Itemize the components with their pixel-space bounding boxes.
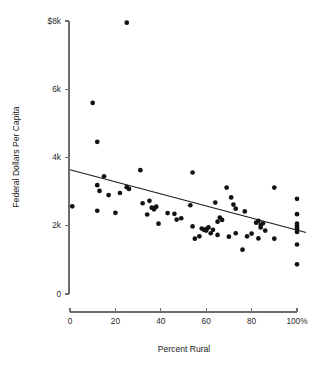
data-point [193,236,198,241]
data-point [106,193,111,198]
data-point [70,204,75,209]
data-point [233,206,238,211]
data-point [113,210,118,215]
data-point [240,247,245,252]
x-axis-tick-label: 60 [202,316,212,326]
data-point [95,208,100,213]
data-point [233,231,238,236]
data-point [190,170,195,175]
data-point [174,217,179,222]
regression-line [70,170,306,233]
data-point [156,221,161,226]
data-point [138,168,143,173]
y-axis-tick-label: 0 [56,289,61,299]
data-point [258,225,263,230]
data-point [227,234,232,239]
data-point [188,203,193,208]
y-axis-tick-label: 4k [52,152,62,162]
data-point [190,224,195,229]
data-point [229,195,234,200]
data-point [295,242,300,247]
chart-canvas: 02k4k6k$8k 020406080100% Federal Dollars… [0,0,320,370]
x-axis-tick-label: 40 [156,316,166,326]
data-point [295,212,300,217]
data-point [249,231,254,236]
data-point [154,204,159,209]
data-point [118,191,123,196]
data-point [124,20,129,25]
data-point [215,233,220,238]
y-axis-tick-label: 2k [52,220,62,230]
x-axis-tick-label: 0 [68,316,73,326]
data-point [295,196,300,201]
y-axis: 02k4k6k$8k [48,16,69,299]
y-axis-tick-label: $8k [48,16,62,26]
data-point [263,228,268,233]
data-point [145,212,150,217]
data-point [242,209,247,214]
data-point [272,185,277,190]
data-point [90,101,95,106]
x-axis: 020406080100% [68,308,309,327]
data-point [147,198,152,203]
y-axis-title: Federal Dollars Per Capita [11,106,21,207]
data-point [95,183,100,188]
scatter-plot-figure: 02k4k6k$8k 020406080100% Federal Dollars… [0,0,320,370]
data-point [211,227,216,232]
y-axis-tick-label: 6k [52,84,62,94]
data-point [215,219,220,224]
data-points-group [70,20,299,266]
data-point [295,262,300,267]
data-point [224,185,229,190]
data-point [179,216,184,221]
data-point [220,218,225,223]
data-point [206,225,211,230]
x-axis-tick-label: 20 [111,316,121,326]
x-axis-tick-label: 80 [247,316,257,326]
data-point [272,236,277,241]
x-axis-title: Percent Rural [158,344,211,354]
x-axis-tick-label: 100% [286,316,308,326]
data-point [231,202,236,207]
data-point [213,200,218,205]
data-point [256,236,261,241]
data-point [127,187,132,192]
regression-line-group [70,170,306,233]
data-point [95,139,100,144]
data-point [172,211,177,216]
data-point [97,189,102,194]
data-point [165,211,170,216]
data-point [245,234,250,239]
data-point [140,201,145,206]
data-point [197,234,202,239]
